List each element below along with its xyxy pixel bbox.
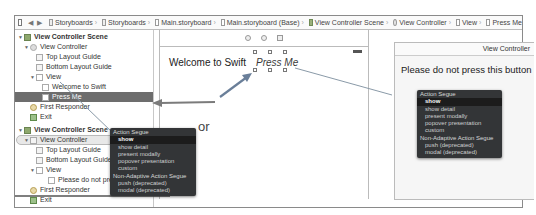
- breadcrumb-separator: ›: [302, 19, 304, 26]
- breadcrumb-view-controller[interactable]: View Controller: [399, 19, 446, 26]
- outline-first-responder-1[interactable]: First Responder: [30, 102, 90, 112]
- folder-icon: [49, 19, 53, 26]
- exit-icon: [30, 114, 37, 121]
- scene-title: View Controller: [395, 43, 534, 56]
- breadcrumb-storyboards-group[interactable]: Storyboards: [108, 19, 146, 26]
- breadcrumb-view-controller-scene[interactable]: View Controller Scene: [315, 19, 384, 26]
- view-controller-icon[interactable]: [245, 35, 251, 41]
- resize-handle[interactable]: [253, 50, 257, 54]
- menu-item-present-modally[interactable]: present modally: [110, 151, 196, 158]
- outline-scene-2[interactable]: ▼ View Controller Scene: [18, 125, 108, 135]
- battery-icon: [353, 50, 362, 53]
- outline-first-responder-2[interactable]: First Responder: [30, 185, 90, 195]
- view-controller-icon: [30, 44, 37, 51]
- first-responder-icon: [30, 104, 37, 111]
- scene-icon: [24, 34, 31, 41]
- outline-view-controller-1[interactable]: ▼ View Controller: [24, 42, 87, 52]
- button-icon: [42, 94, 49, 101]
- please-label[interactable]: Please do not press this button: [401, 64, 531, 75]
- menu-header-non-adaptive: Non-Adaptive Action Segue: [417, 135, 502, 142]
- first-responder-icon: [30, 187, 37, 194]
- storyboard-file-icon: [221, 19, 225, 26]
- scene-dock: [160, 30, 368, 47]
- menu-item-custom[interactable]: custom: [417, 127, 502, 134]
- resize-handle[interactable]: [268, 50, 272, 54]
- segue-menu-left[interactable]: Action Segue show show detail present mo…: [110, 128, 196, 196]
- breadcrumb-separator: ›: [148, 19, 150, 26]
- back-arrow-icon[interactable]: ◀: [28, 19, 33, 27]
- menu-item-show[interactable]: show: [110, 136, 196, 143]
- press-me-button[interactable]: Press Me: [256, 57, 298, 68]
- outline-button-press-me[interactable]: Press Me: [15, 92, 153, 102]
- first-responder-icon[interactable]: [261, 35, 267, 41]
- button-icon: [486, 19, 490, 26]
- folder-icon: [102, 19, 106, 26]
- view-icon: [36, 167, 43, 174]
- outline-exit-1[interactable]: Exit: [30, 112, 52, 122]
- menu-item-popover-presentation[interactable]: popover presentation: [417, 120, 502, 127]
- view-icon: [36, 74, 43, 81]
- menu-item-show-detail[interactable]: show detail: [110, 144, 196, 151]
- menu-header-non-adaptive: Non-Adaptive Action Segue: [110, 173, 196, 180]
- menu-item-modal[interactable]: modal (deprecated): [417, 149, 502, 156]
- menu-item-popover-presentation[interactable]: popover presentation: [110, 158, 196, 165]
- breadcrumb-storyboards[interactable]: Storyboards: [55, 19, 93, 26]
- outline-view-controller-2[interactable]: ▼ View Controller: [16, 135, 124, 145]
- welcome-label[interactable]: Welcome to Swift: [169, 57, 246, 68]
- breadcrumb-separator: ›: [449, 19, 451, 26]
- menu-header-action-segue: Action Segue: [417, 91, 502, 98]
- resize-handle[interactable]: [283, 68, 287, 72]
- layout-guide-icon: [36, 64, 43, 71]
- resize-handle[interactable]: [253, 68, 257, 72]
- outline-label-welcome[interactable]: Welcome to Swift: [42, 82, 106, 92]
- layout-guide-icon: [36, 157, 43, 164]
- storyboard-file-icon: [155, 19, 159, 26]
- breadcrumb-separator: ›: [479, 19, 481, 26]
- outline-view-1[interactable]: ▼ View: [30, 72, 61, 82]
- breadcrumb-main-storyboard-base[interactable]: Main.storyboard (Base): [227, 19, 300, 26]
- view-controller-icon: [393, 19, 397, 26]
- breadcrumb-press-me[interactable]: Press Me: [492, 19, 522, 26]
- menu-item-push[interactable]: push (deprecated): [110, 180, 196, 187]
- exit-icon: [30, 197, 37, 204]
- breadcrumb-separator: ›: [386, 19, 388, 26]
- layout-guide-icon: [36, 54, 43, 61]
- breadcrumb-separator: ›: [95, 19, 97, 26]
- outline-scene-1[interactable]: ▼ View Controller Scene: [18, 32, 108, 42]
- outline-exit-2[interactable]: Exit: [30, 195, 52, 205]
- outline-bottom-layout-guide-2[interactable]: Bottom Layout Guide: [36, 155, 112, 165]
- breadcrumb-view[interactable]: View: [462, 19, 477, 26]
- menu-item-push[interactable]: push (deprecated): [417, 142, 502, 149]
- related-items-icon[interactable]: [18, 19, 22, 26]
- outline-top-layout-guide-2[interactable]: Top Layout Guide: [36, 145, 101, 155]
- menu-item-show-detail[interactable]: show detail: [417, 106, 502, 113]
- menu-item-modal[interactable]: modal (deprecated): [110, 187, 196, 194]
- exit-icon[interactable]: [277, 35, 283, 41]
- resize-handle[interactable]: [268, 68, 272, 72]
- view-controller-icon: [30, 137, 37, 144]
- breadcrumb-separator: ›: [213, 19, 215, 26]
- layout-guide-icon: [36, 147, 43, 154]
- outline-view-2[interactable]: ▼ View: [30, 165, 61, 175]
- scene-icon: [24, 127, 31, 134]
- label-icon: [48, 177, 55, 184]
- menu-item-present-modally[interactable]: present modally: [417, 113, 502, 120]
- view-icon: [456, 19, 460, 26]
- label-icon: [42, 84, 49, 91]
- resize-handle[interactable]: [283, 50, 287, 54]
- outline-bottom-layout-guide-1[interactable]: Bottom Layout Guide: [36, 62, 112, 72]
- outline-top-layout-guide-1[interactable]: Top Layout Guide: [36, 52, 101, 62]
- jump-bar: ◀ ▶ Storyboards › Storyboards › Main.sto…: [15, 16, 522, 30]
- menu-item-custom[interactable]: custom: [110, 165, 196, 172]
- menu-header-action-segue: Action Segue: [110, 129, 196, 136]
- breadcrumb-main-storyboard[interactable]: Main.storyboard: [161, 19, 211, 26]
- or-annotation: or: [198, 119, 210, 134]
- segue-menu-right[interactable]: Action Segue show show detail present mo…: [417, 90, 502, 158]
- forward-arrow-icon[interactable]: ▶: [37, 19, 42, 27]
- scene-icon: [309, 19, 313, 26]
- menu-item-show[interactable]: show: [417, 98, 502, 105]
